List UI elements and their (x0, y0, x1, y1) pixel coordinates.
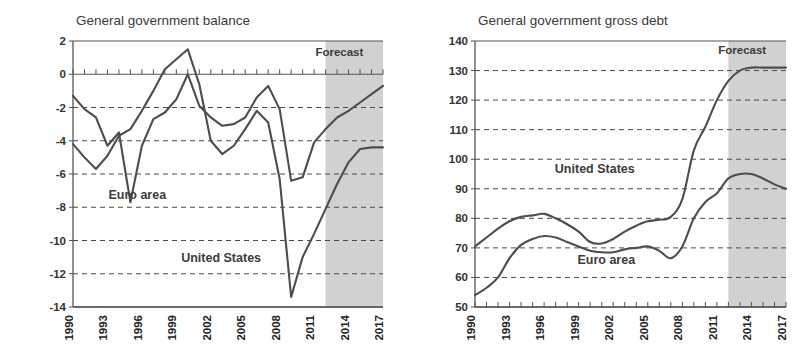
ytick-label--4: -4 (56, 135, 67, 147)
ytick-label--14: -14 (49, 301, 66, 313)
balance-chart-svg: General government balance 20-2-4-6-8-10… (0, 0, 403, 359)
chart-panel-government-balance: General government balance 20-2-4-6-8-10… (0, 0, 403, 359)
ytick-label-130: 130 (449, 65, 468, 77)
xtick-label-2014: 2014 (339, 314, 351, 340)
annotation-forecast: Forecast (718, 44, 766, 56)
ytick-label-2: 2 (60, 35, 66, 47)
xtick-label-2008: 2008 (270, 314, 282, 340)
ytick-label-0: 0 (60, 68, 66, 80)
debt-chart-svg: General government gross debt 1401301201… (403, 0, 806, 359)
ytick-label--10: -10 (49, 235, 66, 247)
annotation-euro-area: Euro area (577, 253, 636, 267)
xtick-label-2011: 2011 (707, 314, 719, 340)
ytick-label-50: 50 (455, 301, 468, 313)
chart-title-gross-debt: General government gross debt (478, 13, 668, 28)
ytick-label-140: 140 (449, 35, 468, 47)
xtick-label-2017: 2017 (776, 315, 788, 341)
annotation-forecast: Forecast (315, 46, 363, 58)
ytick-label--2: -2 (56, 102, 66, 114)
ytick-label-100: 100 (449, 153, 468, 165)
ytick-label-60: 60 (455, 271, 468, 283)
ytick-label-110: 110 (449, 124, 468, 136)
xtick-label-1993: 1993 (97, 315, 109, 341)
xtick-label-2008: 2008 (672, 314, 684, 340)
xtick-label-2011: 2011 (304, 314, 316, 340)
xtick-label-2002: 2002 (201, 315, 213, 341)
xtick-label-1990: 1990 (465, 315, 477, 341)
annotation-united-states: United States (181, 251, 261, 265)
chart-panel-gross-debt: General government gross debt 1401301201… (403, 0, 806, 359)
xtick-label-1999: 1999 (569, 315, 581, 341)
xtick-label-1999: 1999 (166, 315, 178, 341)
annotation-united-states: United States (555, 162, 635, 176)
xtick-label-2002: 2002 (603, 315, 615, 341)
xtick-label-1996: 1996 (534, 315, 546, 341)
ytick-label-80: 80 (455, 212, 468, 224)
xtick-label-1990: 1990 (63, 315, 75, 341)
annotation-euro-area: Euro area (108, 188, 167, 202)
xtick-label-1993: 1993 (500, 315, 512, 341)
ytick-label-120: 120 (449, 94, 468, 106)
ytick-label--6: -6 (56, 168, 66, 180)
ytick-label-90: 90 (455, 183, 468, 195)
xtick-label-2005: 2005 (235, 314, 247, 340)
ytick-label-70: 70 (455, 242, 468, 254)
ytick-label--8: -8 (56, 201, 67, 213)
xtick-label-1996: 1996 (132, 315, 144, 341)
xtick-label-2014: 2014 (741, 314, 753, 340)
xtick-label-2005: 2005 (638, 314, 650, 340)
ytick-label--12: -12 (49, 268, 66, 280)
chart-title-balance: General government balance (76, 13, 250, 28)
xtick-label-2017: 2017 (373, 315, 385, 341)
dual-chart-figure: General government balance 20-2-4-6-8-10… (0, 0, 806, 359)
